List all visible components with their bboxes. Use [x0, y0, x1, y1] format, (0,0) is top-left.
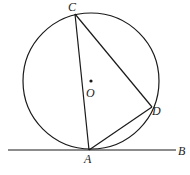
- label-c: C: [68, 0, 77, 14]
- segment-ca: [75, 14, 89, 150]
- label-o: O: [86, 86, 95, 100]
- segment-ad: [89, 107, 152, 150]
- label-d: D: [151, 104, 161, 118]
- label-b: B: [178, 144, 186, 158]
- diagram-canvas: C O D A B: [0, 0, 190, 175]
- label-a: A: [83, 152, 92, 166]
- geometry-diagram: C O D A B: [0, 0, 190, 175]
- center-point-o: [89, 79, 92, 82]
